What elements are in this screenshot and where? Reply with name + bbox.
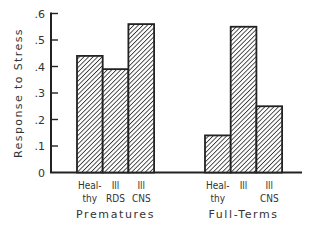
y-tick-label: .5 [35,34,46,47]
y-tick-label: .4 [35,61,46,74]
category-label: Ill [112,180,120,191]
category-label: thy [211,193,226,204]
bar-chart: 0.1.2.3.4.5.6 Heal-thyIllRDSIllCNSPremat… [0,0,311,230]
category-label: Ill [240,180,248,191]
y-tick-label: .2 [35,114,46,127]
y-tick-label: .1 [35,140,46,153]
y-axis-title: Response to Stress [12,28,25,158]
group-label: Full-Terms [208,208,278,221]
y-tick-label: .6 [35,8,46,21]
bar-prematures-ill-cns [128,24,154,172]
category-label: RDS [106,193,125,204]
category-label: Ill [265,180,273,191]
category-label: CNS [132,193,151,204]
x-axis-labels: Heal-thyIllRDSIllCNSPrematuresHeal-thyIl… [76,180,279,221]
category-label: Heal- [78,180,102,191]
y-tick-label: .3 [35,87,46,100]
bar-full-terms-healthy [205,135,231,172]
bar-full-terms-ill-cns [256,106,282,172]
category-label: CNS [260,193,279,204]
category-label: thy [83,193,98,204]
y-tick-label: 0 [38,167,45,180]
category-label: Ill [137,180,145,191]
category-label: Heal- [206,180,230,191]
bar-full-terms-ill [231,27,257,173]
group-label: Prematures [76,208,155,221]
bars [77,24,282,172]
bar-prematures-healthy [77,56,103,173]
bar-prematures-ill-rds [103,69,129,172]
